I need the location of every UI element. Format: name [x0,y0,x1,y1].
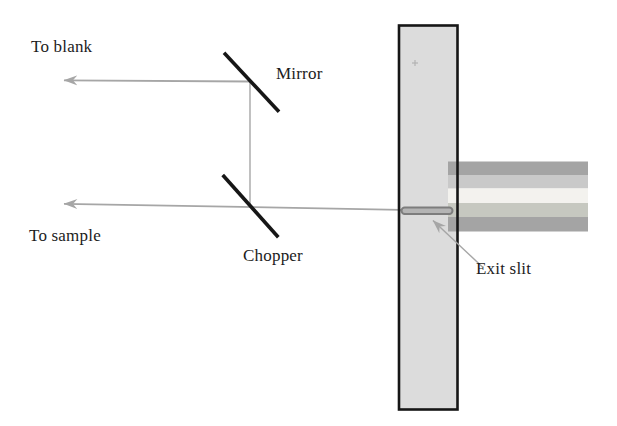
beam-pipe-core [448,189,588,204]
exit-slit-label: Exit slit [476,259,531,279]
to-sample-label: To sample [29,226,101,246]
beam-pipe-outer-top [448,162,588,176]
to-blank-label: To blank [31,37,92,57]
beam-to-sample [64,204,401,210]
beam-pipe-inner-top [448,175,588,189]
beam-pipe-outer-bottom [448,217,588,232]
beam-to-blank [64,80,250,81]
chopper-label: Chopper [243,246,303,266]
mirror-label: Mirror [276,64,323,84]
exit-slit [402,208,453,215]
beam-pipe [448,162,588,232]
optical-diagram: To blank Mirror To sample Chopper Exit s… [0,0,617,426]
beam-pipe-inner-bottom [448,203,588,217]
